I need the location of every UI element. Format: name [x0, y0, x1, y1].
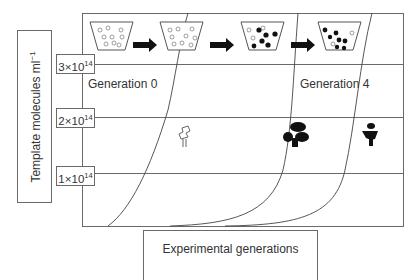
- x-axis-label: Experimental generations: [162, 242, 298, 256]
- generation-0-label: Generation 0: [88, 77, 157, 91]
- y-axis-label-box: Template molecules ml−1: [17, 30, 52, 203]
- arrow-icon: [291, 38, 315, 52]
- beaker-3: [241, 22, 284, 50]
- generation-4-label: Generation 4: [300, 77, 369, 91]
- arrow-icon: [210, 38, 234, 52]
- tick-label-2e14: 2×1014: [56, 108, 95, 128]
- beaker-1: [90, 22, 133, 50]
- beaker-2: [160, 22, 203, 50]
- open-molecule-icon: [179, 126, 190, 147]
- plot-frame: [83, 14, 404, 227]
- tick-label-1e14: 1×1014: [56, 166, 95, 186]
- x-axis-label-box: Experimental generations: [143, 230, 318, 280]
- beaker-4: [318, 22, 361, 50]
- tick-label-3e14: 3×1014: [56, 54, 95, 74]
- filled-small-molecule-icon: [362, 123, 378, 146]
- y-axis-label: Template molecules ml−1: [27, 51, 42, 182]
- filled-molecule-icon: [283, 122, 309, 147]
- arrow-icon: [133, 38, 157, 52]
